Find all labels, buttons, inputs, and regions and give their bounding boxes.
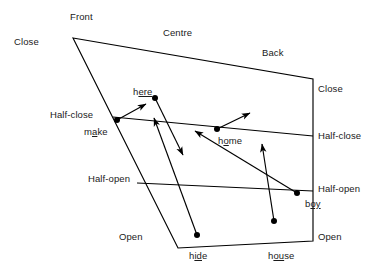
home-arrow: [217, 113, 250, 129]
word-part-underlined: ere: [138, 86, 152, 97]
axis-label-left-half-open: Half-open: [88, 174, 130, 184]
word-label-house: house: [268, 251, 294, 261]
word-part-plain: ke: [97, 126, 107, 137]
vowel-point-home: [214, 126, 220, 132]
half-close-line: [113, 117, 313, 136]
axis-label-left-half-close: Half-close: [50, 110, 93, 120]
axis-label-top-back: Back: [262, 48, 284, 58]
vowel-point-boy: [294, 190, 300, 196]
axis-label-top-centre: Centre: [163, 28, 192, 38]
vowel-point-make: [114, 117, 120, 123]
word-part-underlined: id: [194, 250, 202, 261]
axis-label-right-close: Close: [318, 84, 343, 94]
vowel-point-house: [271, 218, 277, 224]
word-label-make: make: [84, 127, 108, 137]
diagram-canvas: FrontCentreBack CloseHalf-closeHalf-open…: [0, 0, 378, 270]
word-label-boy: boy: [305, 199, 321, 209]
vowel-points: [114, 95, 300, 238]
axis-label-right-half-open: Half-open: [318, 184, 360, 194]
vowel-point-here: [152, 95, 158, 101]
word-part-underlined: ou: [273, 250, 284, 261]
axis-label-right-open: Open: [318, 232, 342, 242]
boy-arrow: [195, 131, 297, 193]
word-label-hide: hide: [189, 251, 207, 261]
word-label-home: home: [218, 136, 242, 146]
frame-outline: [73, 38, 313, 248]
word-part-plain: e: [202, 250, 207, 261]
vowel-point-hide: [194, 232, 200, 238]
vowel-quadrilateral: [73, 38, 313, 248]
word-part-plain: m: [84, 126, 92, 137]
here-arrow: [155, 98, 183, 155]
word-label-here: here: [133, 87, 152, 97]
axis-label-left-open: Open: [119, 232, 143, 242]
axis-label-top-front: Front: [70, 12, 93, 22]
word-part-plain: se: [284, 250, 294, 261]
make-arrow: [117, 104, 146, 120]
level-lines: [113, 117, 313, 191]
trajectory-arrows: [117, 98, 297, 235]
word-part-underlined: oy: [310, 198, 320, 209]
axis-label-right-half-close: Half-close: [318, 131, 361, 141]
hide-arrow: [154, 118, 197, 235]
word-part-plain: me: [229, 135, 242, 146]
house-arrow: [262, 144, 274, 221]
axis-label-left-close: Close: [14, 37, 39, 47]
